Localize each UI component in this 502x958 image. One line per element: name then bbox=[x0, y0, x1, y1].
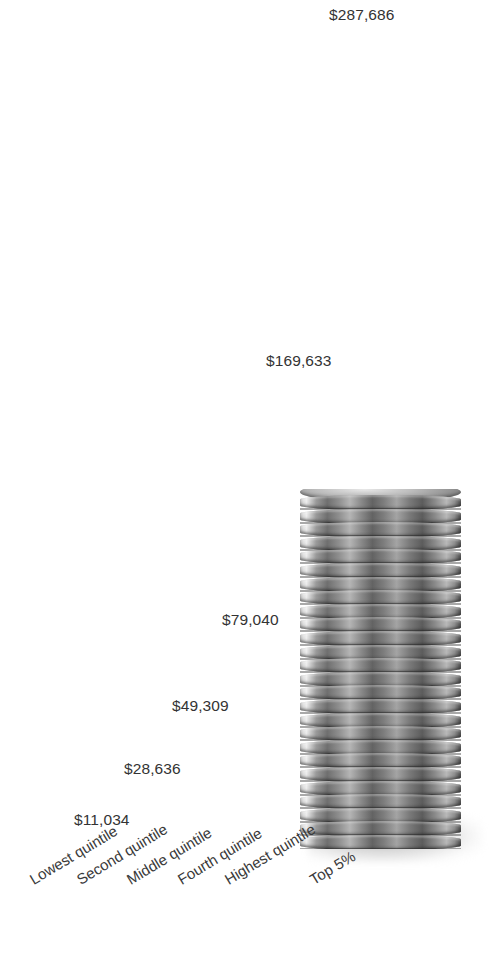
bar-value-label: $79,040 bbox=[222, 612, 279, 628]
bar-value-label: $287,686 bbox=[329, 7, 394, 23]
bar-value-label: $11,034 bbox=[74, 812, 130, 828]
bar-chart: $11,034$28,636$49,309$79,040$169,633$287… bbox=[0, 0, 502, 958]
plot-area: $11,034$28,636$49,309$79,040$169,633$287… bbox=[0, 0, 502, 958]
bar-value-label: $28,636 bbox=[124, 761, 181, 777]
bar-second-quintile[interactable] bbox=[140, 785, 178, 867]
bar-value-label: $169,633 bbox=[266, 353, 331, 369]
bar-middle-quintile[interactable] bbox=[189, 722, 227, 867]
bar-lowest-quintile[interactable] bbox=[90, 836, 128, 867]
bar-value-label: $49,309 bbox=[172, 698, 229, 714]
bar-fourth-quintile[interactable] bbox=[238, 636, 276, 867]
bar-highest-quintile[interactable] bbox=[288, 377, 326, 867]
bar-top-5[interactable] bbox=[351, 31, 389, 867]
